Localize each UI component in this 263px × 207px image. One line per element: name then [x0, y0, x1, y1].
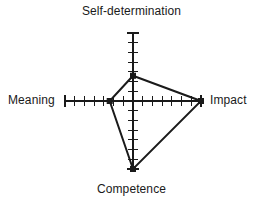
- data-point-competence: [131, 167, 136, 172]
- data-point-self-determination: [131, 73, 136, 78]
- data-point-impact: [199, 99, 204, 104]
- axis-label-impact: Impact: [210, 94, 247, 106]
- data-polygon: [110, 76, 201, 169]
- radar-chart-figure: Self-determination Meaning Impact Compet…: [0, 0, 263, 207]
- axis-label-self-determination: Self-determination: [0, 5, 263, 17]
- axis-label-competence: Competence: [0, 183, 263, 195]
- axis-label-meaning: Meaning: [8, 94, 55, 106]
- data-point-meaning: [107, 99, 112, 104]
